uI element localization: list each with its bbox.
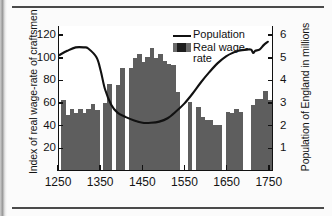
left-axis-tick [58, 125, 63, 127]
left-axis-tick-label: 60 [16, 96, 56, 108]
x-axis-tick [268, 165, 270, 171]
page-edge-shadow [0, 0, 7, 216]
legend-label-real-wage-rate: Real wage- rate [193, 42, 249, 65]
x-axis-tick-label: 1650 [207, 175, 247, 189]
left-axis-tick-label: 120 [16, 28, 56, 40]
left-axis-tick-label: 40 [16, 119, 56, 131]
right-axis-tick-label: 4 [280, 73, 304, 85]
left-axis-tick [58, 102, 63, 104]
right-axis-tick [268, 34, 273, 36]
left-axis-tick [58, 57, 63, 59]
chart-legend: Population Real wage- rate [173, 29, 249, 66]
right-axis-tick [268, 80, 273, 82]
right-axis-tick [268, 125, 273, 127]
x-axis-tick [184, 165, 186, 171]
x-axis-tick [99, 165, 101, 171]
right-axis-tick-label: 2 [280, 119, 304, 131]
left-axis-tick-label: 80 [16, 73, 56, 85]
left-axis-tick-label: 100 [16, 51, 56, 63]
left-axis-tick-label: 20 [16, 141, 56, 153]
bar-swatch-icon [173, 43, 191, 52]
x-axis-tick [142, 165, 144, 171]
x-axis-tick-label: 1450 [122, 175, 162, 189]
x-axis-tick-label: 1750 [249, 175, 289, 189]
right-axis-tick-label: 3 [280, 96, 304, 108]
right-axis-tick [268, 148, 273, 150]
figure-page: Index of real wage-rate of craftsmen Pop… [0, 0, 332, 216]
right-axis-tick-label: 6 [280, 28, 304, 40]
left-axis-tick [58, 80, 63, 82]
legend-label-population: Population [193, 29, 245, 41]
right-axis-tick-label: 5 [280, 51, 304, 63]
x-axis-tick [57, 165, 59, 171]
right-axis-tick [268, 102, 273, 104]
x-axis-tick [226, 165, 228, 171]
line-marker-icon [173, 29, 191, 40]
left-axis-tick [58, 148, 63, 150]
x-axis-tick-label: 1550 [164, 175, 204, 189]
left-axis-tick [58, 34, 63, 36]
legend-item-real-wage-rate: Real wage- rate [173, 42, 249, 65]
chart-figure: Index of real wage-rate of craftsmen Pop… [10, 13, 324, 203]
right-axis-tick [268, 57, 273, 59]
x-axis-tick-label: 1350 [80, 175, 120, 189]
legend-item-population: Population [173, 29, 249, 41]
top-rule [12, 6, 324, 8]
bottom-rule [12, 207, 324, 209]
x-axis-tick-label: 1250 [38, 175, 78, 189]
right-axis-tick-label: 1 [280, 141, 304, 153]
